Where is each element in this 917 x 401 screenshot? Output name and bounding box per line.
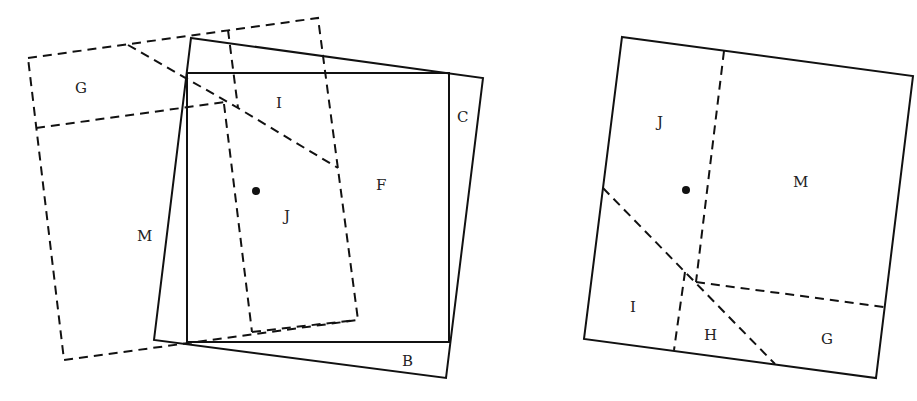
left-diagram: G I C F J M B	[28, 18, 483, 378]
label-i-right: I	[630, 298, 636, 316]
label-g-right: G	[821, 330, 833, 348]
center-dot-right	[682, 186, 690, 194]
label-j: J	[282, 207, 290, 225]
dashed-g-divider	[36, 102, 225, 128]
center-dot	[252, 187, 260, 195]
dashed-j-left	[224, 104, 252, 332]
label-h-right: H	[704, 326, 717, 344]
label-j-right: J	[655, 113, 663, 131]
solid-right-square	[584, 37, 913, 378]
label-m: M	[137, 227, 152, 245]
label-c: C	[457, 108, 468, 126]
dashed-i-h-divider	[674, 272, 685, 350]
label-m-right: M	[793, 173, 808, 191]
solid-square	[187, 73, 449, 342]
dashed-right-diagonal	[603, 188, 775, 364]
solid-tilted-square	[154, 38, 483, 378]
dashed-inner-vertical	[228, 30, 238, 108]
label-f: F	[376, 176, 386, 194]
label-i: I	[276, 94, 282, 112]
label-g: G	[75, 79, 87, 97]
dashed-m-g-divider	[696, 282, 884, 307]
right-diagram: J M I H G	[584, 37, 913, 378]
dashed-j-m-divider	[696, 51, 724, 282]
dashed-outer-square	[28, 18, 358, 360]
dissection-figure: G I C F J M B J M I H G	[0, 0, 917, 401]
label-b: B	[402, 352, 413, 370]
